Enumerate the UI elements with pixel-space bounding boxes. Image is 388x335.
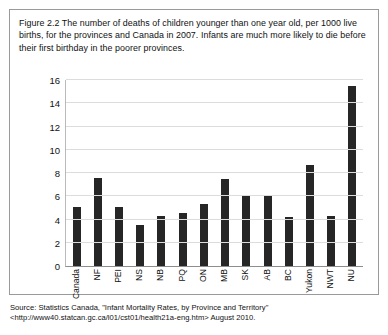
bar	[221, 179, 229, 266]
y-axis: 0246810121416	[36, 80, 60, 266]
x-tick-label: NU	[346, 269, 356, 281]
bar	[348, 86, 356, 266]
bar-chart: 0246810121416 CanadaNFPEINSNBPQONMBSKABB…	[10, 63, 380, 295]
bar-slot	[321, 80, 342, 266]
y-tick-label: 4	[55, 214, 60, 225]
source-note: Source: Statistics Canada, "Infant Morta…	[10, 303, 382, 323]
x-tick-label: PQ	[177, 269, 187, 281]
gridline	[66, 195, 363, 196]
x-tick-label: SK	[240, 269, 250, 280]
bar-series	[66, 80, 363, 266]
x-tick-label: Yukon	[304, 269, 314, 293]
x-tick-label: NB	[155, 269, 165, 281]
bar	[306, 165, 314, 266]
gridline	[66, 242, 363, 243]
y-tick-label: 0	[55, 261, 60, 272]
x-tick-label: ON	[198, 269, 208, 282]
bar	[264, 195, 272, 266]
bar-slot	[108, 80, 129, 266]
bar-slot	[257, 80, 278, 266]
plot-area	[65, 80, 363, 267]
x-tick-label: NWT	[325, 269, 335, 289]
bar	[115, 207, 123, 266]
y-tick-label: 10	[49, 144, 60, 155]
x-tick-label: NS	[134, 269, 144, 281]
bar-slot	[193, 80, 214, 266]
bar-slot	[299, 80, 320, 266]
gridline	[66, 79, 363, 80]
bar-slot	[66, 80, 87, 266]
figure-container: Figure 2.2 The number of deaths of child…	[0, 0, 388, 335]
bar-slot	[87, 80, 108, 266]
x-tick-label: AB	[262, 269, 272, 280]
y-tick-label: 16	[49, 75, 60, 86]
x-tick-label: NF	[92, 269, 102, 280]
bar-slot	[215, 80, 236, 266]
bar	[94, 178, 102, 266]
y-tick-label: 6	[55, 191, 60, 202]
bar-slot	[278, 80, 299, 266]
x-tick-label: BC	[283, 269, 293, 281]
bar-slot	[342, 80, 363, 266]
bar-slot	[130, 80, 151, 266]
gridline	[66, 149, 363, 150]
y-tick-label: 8	[55, 168, 60, 179]
figure-box: Figure 2.2 The number of deaths of child…	[9, 9, 379, 295]
bar	[179, 213, 187, 266]
bar	[242, 196, 250, 266]
bar	[200, 204, 208, 266]
bar-slot	[236, 80, 257, 266]
bar-slot	[172, 80, 193, 266]
y-tick-label: 12	[49, 121, 60, 132]
figure-caption: Figure 2.2 The number of deaths of child…	[10, 10, 378, 56]
x-tick-label: MB	[219, 269, 229, 282]
y-tick-label: 2	[55, 237, 60, 248]
gridline	[66, 102, 363, 103]
gridline	[66, 172, 363, 173]
gridline	[66, 219, 363, 220]
bar	[136, 225, 144, 266]
bar	[73, 207, 81, 266]
x-tick-label: PEI	[113, 269, 123, 283]
x-tick-label: Canada	[71, 269, 81, 299]
gridline	[66, 126, 363, 127]
y-tick-label: 14	[49, 98, 60, 109]
bar-slot	[151, 80, 172, 266]
